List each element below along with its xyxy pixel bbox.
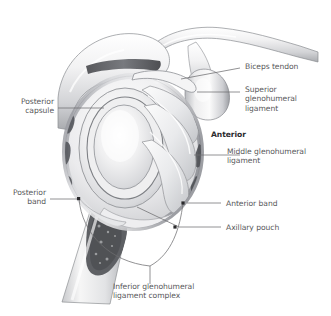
label-posterior-capsule: Posterior capsule	[0, 97, 54, 116]
label-axillary-pouch: Axillary pouch	[226, 223, 279, 232]
label-inferior-glenohumeral-ligament-complex: Inferior glenohumeral ligament complex	[113, 282, 194, 301]
marker-anterior-band	[181, 201, 184, 204]
anatomical-figure: Biceps tendon Superior glenohumeral liga…	[0, 0, 331, 316]
label-biceps-tendon: Biceps tendon	[245, 62, 298, 71]
label-anterior: Anterior	[211, 130, 246, 139]
label-anterior-band: Anterior band	[226, 199, 277, 208]
marker-posterior-band	[77, 197, 80, 200]
label-superior-glenohumeral-ligament: Superior glenohumeral ligament	[245, 85, 297, 113]
label-middle-glenohumeral-ligament: Middle glenohumeral ligament	[227, 147, 306, 166]
marker-axillary-pouch	[173, 225, 176, 228]
label-posterior-band: Posterior band	[0, 188, 46, 207]
clavicle	[150, 27, 318, 62]
